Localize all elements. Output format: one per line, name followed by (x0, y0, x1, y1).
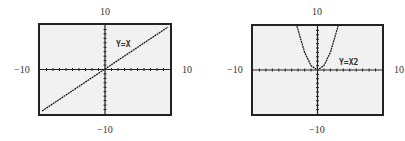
xmax-label: 10 (182, 64, 192, 75)
ymin-label: −10 (97, 124, 113, 135)
calculator-screen: Y=X (38, 23, 172, 116)
plot-area (253, 26, 382, 114)
ymin-label: −10 (309, 124, 325, 135)
ymax-label: 10 (312, 6, 322, 17)
xmax-label: 10 (394, 64, 404, 75)
ymax-label: 10 (100, 6, 110, 17)
xmin-label: −10 (227, 64, 243, 75)
xmin-label: −10 (14, 64, 30, 75)
curve-label: Y=X (116, 40, 130, 49)
curve-label: Y=X2 (339, 58, 358, 67)
calculator-screen: Y=X2 (251, 24, 384, 116)
plot-area (40, 25, 170, 114)
